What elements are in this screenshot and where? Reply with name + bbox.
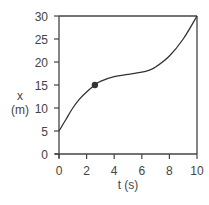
y-tick-label: 15 bbox=[35, 79, 49, 93]
marked-point bbox=[92, 82, 98, 88]
y-tick-label: 10 bbox=[35, 102, 49, 116]
x-tick-label: 10 bbox=[190, 164, 204, 178]
x-ticks: 0246810 bbox=[56, 154, 204, 178]
x-tick-label: 4 bbox=[111, 164, 118, 178]
y-axis-label-line2: (m) bbox=[11, 103, 29, 117]
position-curve bbox=[59, 16, 197, 131]
x-axis-label: t (s) bbox=[118, 178, 139, 192]
y-tick-label: 5 bbox=[41, 125, 48, 139]
plot-frame bbox=[55, 16, 197, 158]
y-ticks: 051015202530 bbox=[35, 10, 59, 162]
position-time-chart: 051015202530 0246810 x (m) t (s) bbox=[0, 0, 209, 205]
x-tick-label: 6 bbox=[138, 164, 145, 178]
y-tick-label: 0 bbox=[41, 148, 48, 162]
y-axis-label-line1: x bbox=[17, 89, 23, 103]
y-tick-label: 30 bbox=[35, 10, 49, 24]
x-tick-label: 2 bbox=[83, 164, 90, 178]
x-tick-label: 0 bbox=[56, 164, 63, 178]
x-tick-label: 8 bbox=[166, 164, 173, 178]
y-tick-label: 20 bbox=[35, 56, 49, 70]
y-tick-label: 25 bbox=[35, 33, 49, 47]
